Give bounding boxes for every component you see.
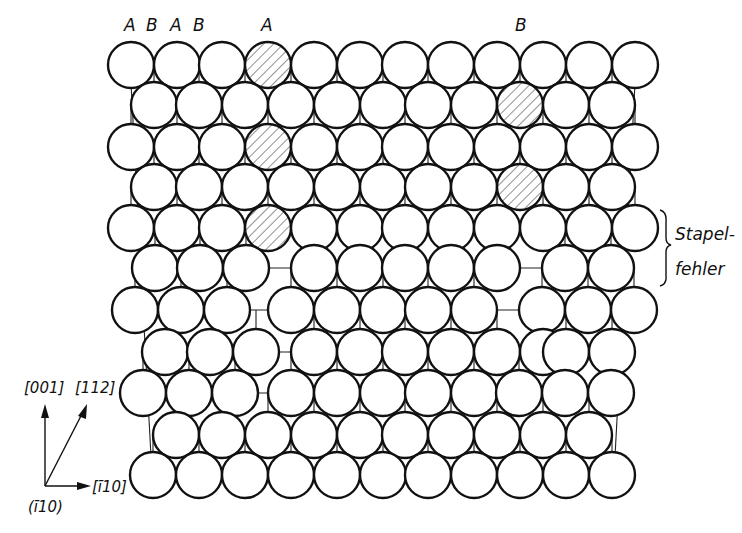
atom [233,329,279,375]
atom [360,452,406,498]
atom [474,412,520,458]
atom [474,245,520,291]
atom [199,124,245,170]
atom [382,245,428,291]
atom [154,205,200,251]
layer-label: B [146,15,158,35]
atom [428,412,474,458]
atom [176,452,222,498]
atom [130,452,176,498]
atom [291,412,337,458]
atom [451,370,497,416]
hatched-atom [497,82,543,128]
atom [612,124,658,170]
atom [268,164,314,210]
axis-001-label: [001] [24,379,64,397]
atom [204,287,250,333]
atom [199,205,245,251]
atom [588,245,634,291]
atom [360,82,406,128]
atom [520,42,566,88]
atom [268,370,314,416]
axis-112-arrow [45,410,84,486]
atom [291,245,337,291]
atom [223,245,269,291]
atom [405,164,451,210]
atom [566,42,612,88]
atom [612,205,658,251]
orientation-axes [41,404,91,490]
plane-label: (ī10) [28,498,63,516]
atom [543,164,589,210]
stacking-fault-label-line1: Stapel- [675,224,735,244]
atom [212,370,258,416]
atom [268,287,314,333]
atom [108,205,154,251]
atom [405,82,451,128]
atom [428,245,474,291]
atom [142,329,188,375]
atom [542,245,588,291]
atom [566,412,612,458]
atom [132,245,178,291]
atom [382,42,428,88]
atom [245,412,291,458]
hatched-atom [245,124,291,170]
atom [153,412,199,458]
arrowhead-right-icon [77,482,91,490]
atom [291,329,337,375]
atom [154,124,200,170]
atom [199,412,245,458]
atom [222,452,268,498]
atom [291,42,337,88]
atom [120,370,166,416]
atom [543,452,589,498]
atom [566,205,612,251]
atom [108,124,154,170]
atom [108,42,154,88]
atom [291,124,337,170]
atom [337,42,383,88]
atom [428,124,474,170]
atom [451,164,497,210]
arrowhead-up-icon [41,404,49,418]
atom [565,287,611,333]
atom [177,245,223,291]
atom [314,287,360,333]
atom-layer [108,42,658,498]
layer-label: A [260,15,273,35]
atom [588,370,634,416]
atom [405,287,451,333]
hatched-atom [245,205,291,251]
stacking-fault-diagram: ABABAB Stapel- fehler [001] [112] [ī10] … [0,0,742,533]
layer-label: B [515,15,527,35]
atom [131,82,177,128]
atom [496,370,542,416]
atom [520,124,566,170]
atom [154,42,200,88]
atom [451,452,497,498]
atom [222,164,268,210]
atom [611,287,657,333]
axis-110-label: [ī10] [92,478,127,496]
atom [612,42,658,88]
atom [382,329,428,375]
atom [222,82,268,128]
atom [497,452,543,498]
hatched-atom [497,164,543,210]
atom [543,329,589,375]
stacking-fault-brace [660,210,671,286]
atom [474,124,520,170]
atom [337,124,383,170]
atom [187,329,233,375]
layer-labels: ABABAB [123,15,527,35]
atom [199,42,245,88]
stacking-fault-label-line2: fehler [675,259,725,279]
atom [520,205,566,251]
atom [360,287,406,333]
hatched-atom [245,42,291,88]
atom [314,370,360,416]
atom [112,287,158,333]
atom [166,370,212,416]
atom [158,287,204,333]
